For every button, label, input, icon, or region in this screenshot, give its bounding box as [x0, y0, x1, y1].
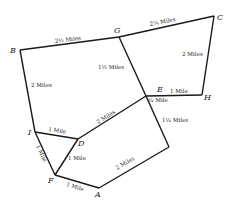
node-label-e: E [156, 85, 163, 94]
node-label-b: B [9, 46, 16, 55]
edge-b-i [20, 50, 35, 132]
edge-label-c-h: 2 Miles [182, 51, 203, 57]
node-label-i: I [27, 128, 32, 137]
edge-d-e [78, 96, 146, 139]
node-label-g: G [114, 26, 121, 35]
node-label-d: D [77, 139, 85, 148]
edge-label-g-e: 1½ Miles [98, 64, 124, 70]
edge-label-i-d: 1 Mile [48, 126, 67, 135]
road-network-diagram: B G C H E I D F A 2½ Miles 2¼ Miles 2 Mi… [0, 0, 231, 206]
edge-label-e-h: 1 Mile [170, 88, 189, 94]
edge-label-d-f: 1 Mile [68, 155, 87, 161]
node-label-h: H [203, 93, 212, 102]
edge-label-i-f: 1 Mile [35, 144, 48, 163]
node-label-f: F [47, 176, 54, 185]
node-label-c: C [217, 13, 223, 22]
edge-a-r [99, 147, 169, 188]
edge-label-e-quarter: ¼ Mile [148, 97, 169, 103]
edge-label-b-i: 2 Miles [31, 82, 52, 88]
node-label-a: A [94, 190, 101, 199]
edge-c-h [202, 16, 214, 95]
edge-label-e-r: 1¼ Miles [162, 117, 188, 123]
edge-e-h [146, 95, 202, 96]
